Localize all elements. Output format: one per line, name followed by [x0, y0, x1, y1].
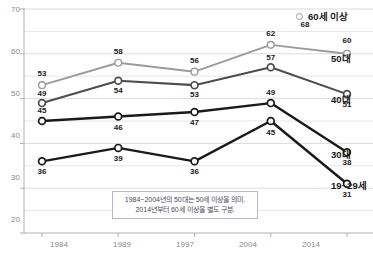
- data-point-label: 62: [261, 29, 281, 38]
- data-point-label: 58: [108, 47, 128, 56]
- x-axis-tick-1984: 1984: [41, 240, 77, 249]
- data-point-label: 53: [32, 69, 52, 78]
- data-point-label: 49: [261, 88, 281, 97]
- chart-plot-area: [0, 0, 373, 261]
- data-point-label: 60: [337, 36, 357, 45]
- x-axis-tick-2014: 2014: [293, 240, 329, 249]
- data-point-label: 38: [337, 158, 357, 167]
- data-point-label: 57: [261, 53, 281, 62]
- data-point-label: 46: [108, 123, 128, 132]
- annotation-note-box: 1984~2004년의 50대는 50세 이상을 의미. 2014년부터 60세…: [112, 191, 258, 219]
- data-point-label: 31: [337, 190, 357, 199]
- y-axis-tick-40: 40: [2, 131, 20, 140]
- y-axis-tick-70: 70: [2, 5, 20, 14]
- x-axis-tick-2004: 2004: [230, 240, 266, 249]
- legend-value-label: 68: [297, 20, 313, 29]
- data-point-label: 36: [185, 167, 205, 176]
- data-point-label: 36: [32, 167, 52, 176]
- legend-label: 60세 이상: [308, 9, 348, 23]
- data-point-label: 56: [185, 56, 205, 65]
- annotation-line-1: 1984~2004년의 50대는 50세 이상을 의미.: [115, 195, 255, 205]
- y-axis-tick-50: 50: [2, 89, 20, 98]
- annotation-line-2: 2014년부터 60세 이상을 별도 구분.: [115, 205, 255, 215]
- data-point-label: 45: [32, 106, 52, 115]
- data-point-label: 54: [108, 86, 128, 95]
- data-point-label: 47: [185, 118, 205, 127]
- line-chart: 70 60 50 40 30 20 1984 1989 1997 2004 20…: [0, 0, 373, 261]
- y-axis-tick-20: 20: [2, 215, 20, 224]
- open-circle-marker-icon: [296, 13, 303, 20]
- data-point-label: 53: [185, 90, 205, 99]
- data-point-label: 45: [261, 128, 281, 137]
- data-point-label: 51: [337, 100, 357, 109]
- data-point-label: 49: [32, 89, 52, 98]
- y-axis-tick-30: 30: [2, 173, 20, 182]
- series-end-label-50dae: 50대: [331, 51, 351, 65]
- x-axis-tick-1989: 1989: [104, 240, 140, 249]
- y-axis-tick-60: 60: [2, 47, 20, 56]
- x-axis-tick-1997: 1997: [167, 240, 203, 249]
- data-point-label: 39: [108, 154, 128, 163]
